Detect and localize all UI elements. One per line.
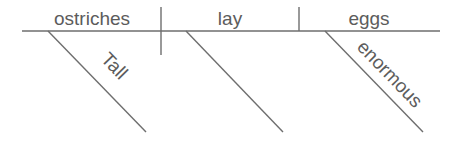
subject-word: ostriches	[54, 8, 130, 29]
object-modifier-word: enormous	[353, 36, 427, 111]
verb-modifier-line	[186, 31, 283, 132]
subject-modifier-word: Tall	[97, 48, 132, 83]
subject-modifier-line	[48, 31, 146, 132]
sentence-diagram: ostriches lay eggs Tall enormous	[0, 0, 464, 141]
verb-word: lay	[218, 8, 243, 29]
object-word: eggs	[348, 8, 389, 29]
